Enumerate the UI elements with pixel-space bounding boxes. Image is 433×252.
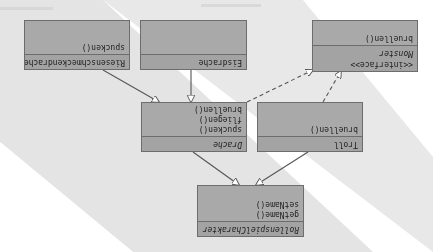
method: spucken() (146, 124, 242, 134)
class-header: <<interface>> Monster (313, 45, 417, 71)
method: fliegen() (146, 114, 242, 124)
class-name: Drache (142, 136, 246, 151)
method: setName() (202, 199, 299, 209)
method-list: bruellen() (258, 122, 362, 136)
method: bruellen() (146, 104, 242, 114)
method: spucken() (29, 42, 125, 52)
class-name: Eisdrache (141, 54, 246, 69)
method: getName() (202, 209, 299, 219)
class-drache[interactable]: Drache spucken() fliegen() bruellen() (141, 102, 247, 152)
class-troll[interactable]: Troll bruellen() (257, 102, 363, 152)
class-name: Riesenschmeckendrache (25, 54, 129, 69)
method-list: getName() setName() (198, 197, 303, 221)
method-list: bruellen() (313, 31, 417, 45)
class-rollenspielcharakter[interactable]: RollenspielCharakter getName() setName() (197, 185, 304, 237)
class-name: Troll (258, 136, 362, 151)
class-riesenschmeckendrache[interactable]: Riesenschmeckendrache spucken() (24, 20, 130, 70)
class-monster-interface[interactable]: <<interface>> Monster bruellen() (312, 20, 418, 72)
class-name: Monster (313, 48, 413, 59)
class-eisdrache[interactable]: Eisdrache (140, 20, 247, 70)
scan-artifact (0, 7, 53, 10)
method-list: spucken() fliegen() bruellen() (142, 102, 246, 136)
method: bruellen() (262, 124, 358, 134)
method: bruellen() (317, 33, 413, 43)
method-list (141, 50, 246, 54)
method-list: spucken() (25, 40, 129, 54)
scan-artifact (201, 4, 261, 7)
stereotype: <<interface>> (313, 59, 413, 70)
class-name: RollenspielCharakter (198, 221, 303, 236)
uml-diagram: RollenspielCharakter getName() setName()… (0, 0, 433, 252)
